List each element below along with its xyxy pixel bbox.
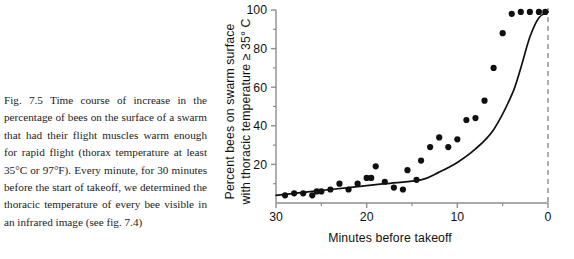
chart-container: Percent bees on swarm surface with thora… (208, 0, 574, 259)
data-point (454, 136, 460, 142)
data-point (463, 117, 469, 123)
data-point (404, 167, 410, 173)
data-point (436, 134, 442, 140)
data-point (345, 186, 351, 192)
data-point (500, 30, 506, 36)
data-point (373, 163, 379, 169)
data-point (427, 144, 433, 150)
data-point (536, 9, 542, 15)
data-point (282, 192, 288, 198)
data-point (355, 181, 361, 187)
data-point (542, 9, 548, 15)
x-tick-label: 0 (545, 210, 552, 224)
x-tick-label: 30 (269, 210, 283, 224)
data-point (368, 175, 374, 181)
y-tick-label: 20 (253, 158, 267, 172)
y-tick-label: 100 (246, 3, 267, 17)
data-point (527, 9, 533, 15)
y-tick-label: 40 (253, 119, 267, 133)
data-point (300, 190, 306, 196)
data-point (382, 179, 388, 185)
data-point (481, 98, 487, 104)
data-point (318, 188, 324, 194)
trend-curve (276, 12, 548, 195)
x-tick-label: 20 (360, 210, 374, 224)
data-point (518, 9, 524, 15)
data-point (327, 186, 333, 192)
data-point (336, 181, 342, 187)
data-point (509, 11, 515, 17)
axes-group (271, 10, 548, 208)
data-point (413, 177, 419, 183)
data-point (418, 157, 424, 163)
trend-curve-group (276, 12, 548, 195)
figure-7-5: Fig. 7.5 Time course of increase in the … (0, 0, 574, 259)
y-tick-label: 80 (253, 42, 267, 56)
data-point (491, 65, 497, 71)
data-point (445, 144, 451, 150)
y-tick-label: 60 (253, 81, 267, 95)
data-point (391, 184, 397, 190)
data-point (472, 115, 478, 121)
figure-caption: Fig. 7.5 Time course of increase in the … (4, 92, 207, 231)
data-point (400, 186, 406, 192)
data-point (291, 190, 297, 196)
x-tick-label: 10 (450, 210, 464, 224)
scatter-plot: 204060801003020100 (208, 0, 574, 259)
